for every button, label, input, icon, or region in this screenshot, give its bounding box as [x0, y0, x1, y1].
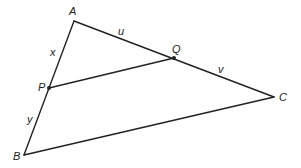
point-q-dot: [172, 56, 176, 60]
segment-pq: [49, 58, 174, 88]
label-b: B: [13, 150, 20, 162]
label-c: C: [279, 91, 287, 103]
point-p-dot: [47, 86, 51, 90]
label-v: v: [218, 63, 225, 75]
label-x: x: [49, 46, 56, 58]
label-y: y: [26, 113, 34, 125]
side-bc: [24, 97, 274, 155]
label-u: u: [118, 25, 124, 37]
label-q: Q: [172, 43, 181, 55]
label-p: P: [38, 81, 46, 93]
triangle-diagram: A B C P Q x y u v: [0, 0, 301, 168]
label-a: A: [68, 5, 76, 17]
